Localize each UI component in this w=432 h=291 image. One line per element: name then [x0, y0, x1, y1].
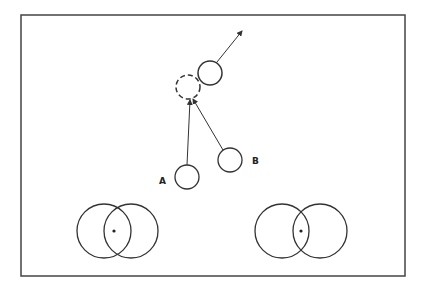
circle-a [175, 165, 199, 189]
arrow-from-b [193, 99, 223, 150]
left-pair-center-dot [112, 229, 115, 232]
moving-circle [198, 61, 222, 85]
right-pair-center-dot [299, 229, 302, 232]
arrow-from-a [187, 100, 190, 165]
collision-diagram: A B [0, 0, 432, 291]
diagram-frame [21, 15, 405, 276]
circle-b [218, 148, 242, 172]
collision-circle-dashed [176, 75, 200, 99]
label-b: B [252, 156, 259, 166]
velocity-arrow [217, 31, 242, 62]
label-a: A [159, 176, 166, 186]
